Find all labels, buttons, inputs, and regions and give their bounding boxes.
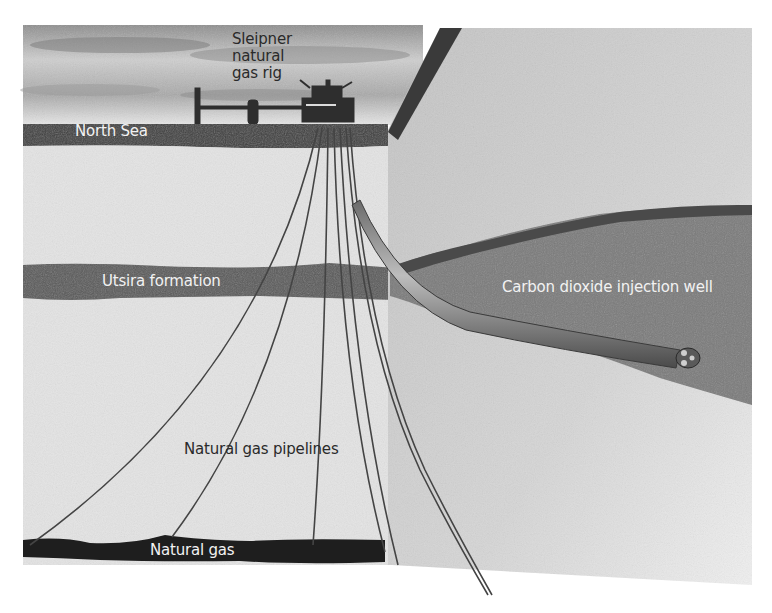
rock-front-face — [23, 145, 388, 565]
label-sleipner-rig: Sleipner natural gas rig — [232, 31, 312, 82]
well-end-cap — [676, 348, 700, 368]
label-rig-line-3: gas rig — [232, 65, 312, 82]
label-rig-line-2: natural — [232, 48, 312, 65]
label-utsira-formation: Utsira formation — [102, 272, 221, 290]
label-natural-gas: Natural gas — [150, 541, 234, 559]
label-co2-injection-well: Carbon dioxide injection well — [502, 278, 713, 296]
label-north-sea: North Sea — [75, 122, 148, 140]
sky — [20, 25, 423, 125]
ccs-cross-section-illustration — [0, 0, 772, 613]
label-rig-line-1: Sleipner — [232, 31, 312, 48]
label-natural-gas-pipelines: Natural gas pipelines — [184, 440, 339, 458]
